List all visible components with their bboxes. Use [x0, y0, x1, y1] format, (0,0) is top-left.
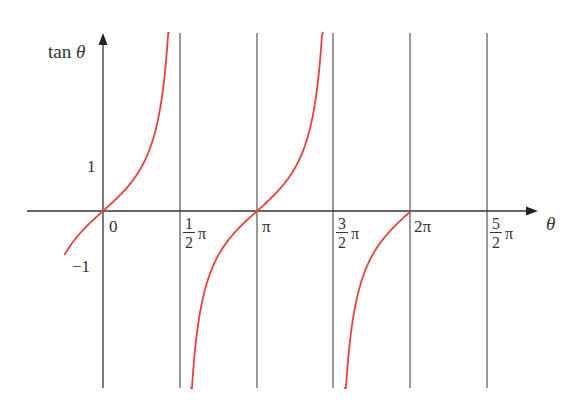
tan-graph: [0, 0, 578, 415]
x-tick-five-half-pi: 52 π: [490, 216, 513, 251]
y-tick-minus-1: −1: [72, 258, 90, 275]
frac-den: 2: [336, 232, 348, 251]
pi-symbol: π: [505, 225, 513, 243]
frac-num: 3: [336, 216, 348, 232]
x-axis-label: θ: [546, 214, 555, 233]
x-tick-half-pi: 12 π: [183, 216, 206, 251]
y-axis-arrow-icon: [99, 33, 108, 45]
y-tick-1: 1: [87, 158, 96, 175]
pi-symbol: π: [198, 225, 206, 243]
frac-den: 2: [490, 232, 502, 251]
frac-den: 2: [183, 232, 195, 251]
y-axis-label: tan θ: [48, 42, 85, 61]
frac-num: 1: [183, 216, 195, 232]
x-tick-three-half-pi: 32 π: [336, 216, 359, 251]
y-label-theta: θ: [76, 41, 85, 62]
x-axis-arrow-icon: [526, 207, 538, 216]
frac-num: 5: [490, 216, 502, 232]
x-tick-two-pi: 2π: [414, 218, 431, 235]
origin-label: 0: [109, 218, 118, 235]
pi-symbol: π: [351, 225, 359, 243]
y-label-tan: tan: [48, 41, 71, 62]
x-tick-pi: π: [262, 218, 271, 235]
